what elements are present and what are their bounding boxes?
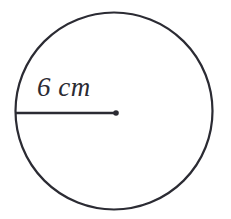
circle-diagram-svg xyxy=(0,0,231,219)
geometry-figure: 6 cm xyxy=(0,0,231,219)
circle-outline xyxy=(16,13,213,210)
center-point-dot xyxy=(113,110,119,116)
radius-measurement-label: 6 cm xyxy=(37,74,91,101)
